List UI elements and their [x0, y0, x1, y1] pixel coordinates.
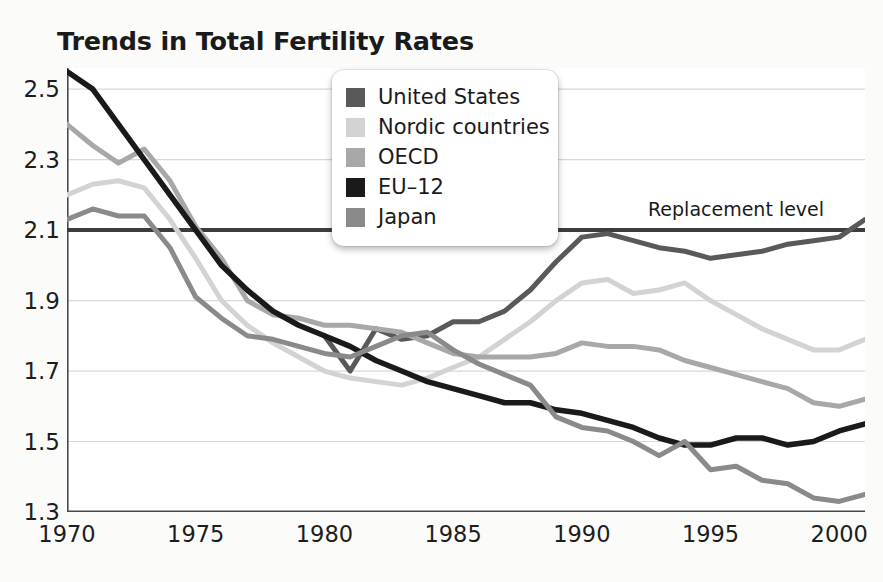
- legend-swatch-icon: [346, 178, 365, 197]
- legend-swatch-icon: [346, 88, 365, 107]
- page-title: Trends in Total Fertility Rates: [57, 26, 474, 56]
- y-axis-tick-label: 1.5: [23, 429, 60, 455]
- legend-item[interactable]: EU–12: [346, 172, 544, 202]
- y-axis-tick-labels: 2.52.32.11.91.71.51.3: [0, 68, 60, 512]
- fertility-rate-chart-figure: Trends in Total Fertility Rates 2.52.32.…: [0, 0, 883, 582]
- x-axis-tick-label: 1970: [38, 521, 95, 547]
- x-axis-tick-label: 2000: [811, 521, 868, 547]
- x-axis-tick-label: 1990: [553, 521, 610, 547]
- x-axis-tick-label: 1985: [424, 521, 481, 547]
- y-axis-tick-label: 2.3: [23, 147, 60, 173]
- legend-swatch-icon: [346, 208, 365, 227]
- x-axis-tick-label: 1995: [682, 521, 739, 547]
- legend-item-label: OECD: [378, 147, 439, 168]
- x-axis-tick-labels: 1970197519801985199019952000: [67, 521, 865, 561]
- x-axis-tick-label: 1980: [296, 521, 353, 547]
- y-axis-tick-label: 1.7: [23, 358, 60, 384]
- legend-item-label: EU–12: [378, 177, 444, 198]
- x-axis-tick-label: 1975: [167, 521, 224, 547]
- legend-item-label: Japan: [378, 207, 437, 228]
- replacement-level-annotation: Replacement level: [648, 198, 824, 220]
- legend-item-label: Nordic countries: [378, 117, 550, 138]
- legend-swatch-icon: [346, 148, 365, 167]
- legend-swatch-icon: [346, 118, 365, 137]
- y-axis-tick-label: 2.5: [23, 76, 60, 102]
- legend-item[interactable]: OECD: [346, 142, 544, 172]
- legend-item[interactable]: United States: [346, 82, 544, 112]
- chart-legend: United StatesNordic countriesOECDEU–12Ja…: [332, 70, 558, 246]
- y-axis-tick-label: 2.1: [23, 217, 60, 243]
- legend-item[interactable]: Nordic countries: [346, 112, 544, 142]
- y-axis-tick-label: 1.9: [23, 288, 60, 314]
- legend-item[interactable]: Japan: [346, 202, 544, 232]
- legend-item-label: United States: [378, 87, 520, 108]
